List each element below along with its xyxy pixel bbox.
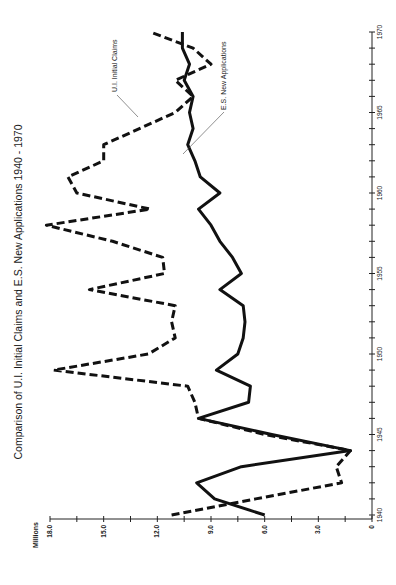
x-tick-label: 1940 <box>376 507 383 522</box>
annotation-ui-claims: U.I. Initial Claims <box>111 39 118 92</box>
y-tick-label: 15.0 <box>100 525 107 538</box>
y-tick-label: 3.0 <box>314 525 321 534</box>
y-tick-label: 12.0 <box>153 525 160 538</box>
x-tick-label: 1970 <box>376 24 383 39</box>
y-tick-label: 6.0 <box>261 525 268 534</box>
chart-title: Comparison of U.I. Initial Claims and E.… <box>12 124 24 459</box>
y-tick-label: 9.0 <box>207 525 214 534</box>
annotation-es-applications: E.S. New Applications <box>220 41 228 110</box>
x-tick-label: 1960 <box>376 185 383 200</box>
annotations: U.I. Initial ClaimsE.S. New Applications <box>111 39 228 154</box>
x-tick-label: 1950 <box>376 346 383 361</box>
axes: 03.06.09.012.015.018.0194019451950195519… <box>46 24 383 537</box>
rotated-line-chart: 03.06.09.012.015.018.0194019451950195519… <box>0 0 396 585</box>
x-tick-label: 1945 <box>376 427 383 442</box>
x-tick-label: 1965 <box>376 105 383 120</box>
series-layer <box>46 32 350 515</box>
y-tick-label: 0 <box>368 525 375 529</box>
x-tick-label: 1955 <box>376 266 383 281</box>
y-tick-label: 18.0 <box>46 525 53 538</box>
y-axis-unit-label: Millions <box>32 522 39 548</box>
es-applications-line <box>182 32 350 515</box>
